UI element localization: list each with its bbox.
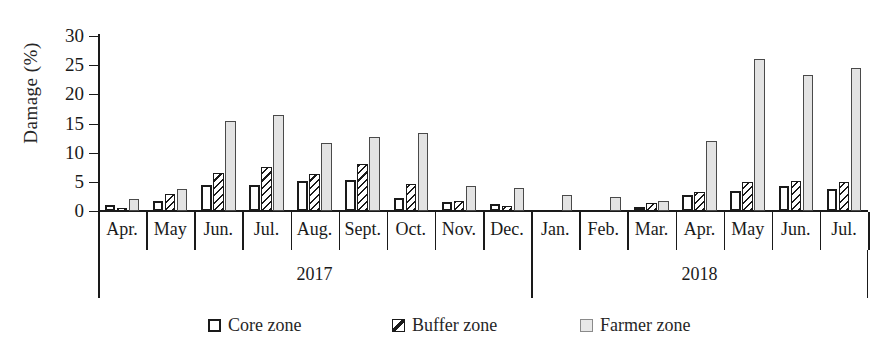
bar-buffer — [357, 164, 368, 211]
bar-group — [531, 36, 579, 211]
bar-buffer — [646, 203, 657, 211]
category-label: Sept. — [339, 220, 387, 238]
category-label: May — [724, 220, 772, 238]
y-axis-tick — [89, 94, 98, 95]
legend-item-buffer[interactable]: Buffer zone — [392, 315, 497, 336]
year-label: 2017 — [98, 264, 531, 285]
bar-core — [779, 186, 790, 211]
legend-item-farmer[interactable]: Farmer zone — [580, 315, 690, 336]
bar-buffer — [261, 167, 272, 211]
category-label: Jul. — [242, 220, 290, 238]
bar-group — [146, 36, 194, 211]
category-label: Mar. — [627, 220, 675, 238]
bar-core — [249, 185, 260, 211]
category-separator — [868, 212, 870, 250]
bar-group — [339, 36, 387, 211]
bar-group — [724, 36, 772, 211]
bar-group — [772, 36, 820, 211]
bar-core — [297, 181, 308, 211]
bar-buffer — [742, 182, 753, 211]
category-label: Dec. — [483, 220, 531, 238]
bar-core — [634, 207, 645, 211]
bar-core — [827, 189, 838, 211]
bar-core — [730, 191, 741, 211]
legend-label: Core zone — [228, 315, 301, 336]
core-swatch-icon — [208, 319, 221, 332]
y-axis-tick-label: 10 — [44, 143, 84, 162]
year-label: 2018 — [531, 264, 868, 285]
category-label: Apr. — [98, 220, 146, 238]
bar-farmer — [754, 59, 765, 211]
y-axis-tick — [89, 124, 98, 125]
bar-group — [676, 36, 724, 211]
category-label: Aug. — [291, 220, 339, 238]
bar-group — [483, 36, 531, 211]
category-label: Nov. — [435, 220, 483, 238]
bar-farmer — [466, 186, 477, 211]
bar-group — [435, 36, 483, 211]
y-axis-title: Damage (%) — [20, 18, 42, 168]
bar-core — [682, 195, 693, 211]
category-label: Jun. — [772, 220, 820, 238]
bar-farmer — [610, 197, 621, 211]
category-label: Jul. — [820, 220, 868, 238]
bar-buffer — [454, 201, 465, 212]
bar-core — [201, 185, 212, 211]
category-label: Jun. — [194, 220, 242, 238]
category-label: May — [146, 220, 194, 238]
plot-area: 051015202530 — [98, 36, 868, 211]
chart-legend: Core zoneBuffer zoneFarmer zone — [0, 315, 884, 345]
bar-group — [98, 36, 146, 211]
legend-label: Buffer zone — [412, 315, 497, 336]
y-axis-tick-label: 25 — [44, 55, 84, 74]
legend-item-core[interactable]: Core zone — [208, 315, 301, 336]
bar-group — [194, 36, 242, 211]
bar-buffer — [406, 184, 417, 211]
bar-buffer — [839, 182, 850, 211]
bar-farmer — [321, 143, 332, 211]
category-label: Jan. — [531, 220, 579, 238]
y-axis-tick-label: 20 — [44, 84, 84, 103]
farmer-swatch-icon — [580, 319, 593, 332]
bar-group — [242, 36, 290, 211]
bar-buffer — [502, 206, 513, 211]
bar-core — [394, 198, 405, 211]
y-axis-tick-label: 5 — [44, 172, 84, 191]
bar-farmer — [706, 141, 717, 211]
bar-core — [345, 180, 356, 211]
bar-farmer — [851, 68, 862, 211]
bar-farmer — [273, 115, 284, 211]
bar-buffer — [694, 192, 705, 211]
bar-buffer — [213, 173, 224, 211]
legend-label: Farmer zone — [600, 315, 690, 336]
y-axis-tick — [89, 65, 98, 66]
bar-group — [820, 36, 868, 211]
bar-core — [442, 202, 453, 211]
buffer-swatch-icon — [392, 319, 405, 332]
bar-farmer — [418, 133, 429, 211]
bar-core — [105, 205, 116, 211]
bar-farmer — [177, 189, 188, 211]
y-axis-tick — [89, 153, 98, 154]
bar-buffer — [309, 174, 320, 211]
y-axis-tick — [89, 182, 98, 183]
category-label: Feb. — [579, 220, 627, 238]
y-axis-tick — [89, 36, 98, 37]
bar-farmer — [562, 195, 573, 211]
y-axis-tick — [89, 211, 98, 212]
bar-farmer — [514, 188, 525, 211]
y-axis-tick-label: 0 — [44, 201, 84, 220]
bar-buffer — [791, 181, 802, 211]
category-axis: Apr.MayJun.Jul.Aug.Sept.Oct.Nov.Dec.Jan.… — [98, 212, 868, 250]
bar-farmer — [803, 75, 814, 212]
category-label: Apr. — [676, 220, 724, 238]
bar-farmer — [369, 137, 380, 211]
y-axis-tick-label: 30 — [44, 26, 84, 45]
bar-core — [153, 201, 164, 212]
bar-core — [490, 204, 501, 211]
y-axis-tick-label: 15 — [44, 114, 84, 133]
bar-farmer — [225, 121, 236, 211]
bar-buffer — [117, 208, 128, 212]
bar-group — [627, 36, 675, 211]
bar-buffer — [165, 194, 176, 211]
